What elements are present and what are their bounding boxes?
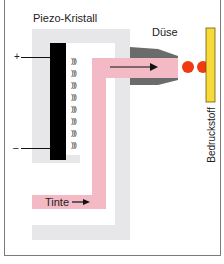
pressure-wave-icon: ))) [71, 105, 76, 113]
pressure-wave-icon: ))) [71, 141, 76, 149]
pressure-wave-icon: ))) [71, 117, 76, 125]
pressure-wave-icon: ))) [71, 129, 76, 137]
ink-drop [182, 61, 194, 73]
ink-arrow-head-icon [83, 199, 90, 205]
minus-label: – [13, 143, 19, 153]
crystal-label: Piezo-Kristall [33, 13, 97, 24]
pressure-wave-icon: ))) [71, 81, 76, 89]
nozzle-lower [130, 78, 178, 85]
pressure-wave-icon: ))) [71, 93, 76, 101]
ink-label: Tinte [45, 197, 69, 208]
nozzle-graphic [0, 0, 224, 264]
nozzle-upper [130, 47, 178, 58]
nozzle-label: Düse [152, 27, 178, 38]
wire-minus [21, 148, 50, 149]
wire-plus [21, 57, 50, 58]
piezo-crystal [50, 43, 66, 160]
plus-label: + [14, 52, 20, 62]
substrate [206, 28, 215, 102]
pressure-wave-icon: ))) [71, 69, 76, 77]
substrate-label: Bedruckstoff [207, 103, 217, 167]
pressure-wave-icon: ))) [71, 57, 76, 65]
